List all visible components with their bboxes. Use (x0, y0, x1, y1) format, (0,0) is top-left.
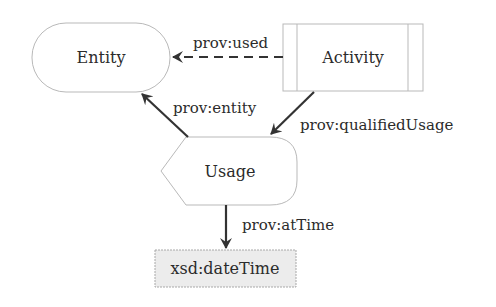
qualified-usage-label: prov:qualifiedUsage (300, 116, 453, 134)
usage-node: Usage (161, 137, 297, 205)
edge-entity: prov:entity (142, 94, 257, 137)
activity-node: Activity (283, 24, 423, 91)
used-label: prov:used (193, 34, 269, 52)
at-time-label: prov:atTime (242, 216, 334, 234)
datetime-label: xsd:dateTime (171, 259, 280, 278)
edge-qualified-usage: prov:qualifiedUsage (271, 92, 453, 134)
entity-label: Entity (77, 48, 126, 67)
edge-at-time: prov:atTime (226, 205, 334, 248)
usage-label: Usage (205, 162, 256, 181)
activity-label: Activity (321, 48, 384, 67)
prov-usage-diagram: Entity Activity Usage xsd:dateTime prov:… (0, 0, 496, 307)
edge-used: prov:used (173, 34, 283, 57)
entity-edge-label: prov:entity (173, 99, 257, 117)
entity-node: Entity (32, 23, 170, 92)
datetime-node: xsd:dateTime (155, 250, 296, 287)
